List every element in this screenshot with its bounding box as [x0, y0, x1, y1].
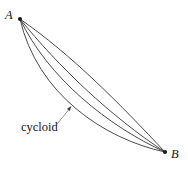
point-b-dot: [163, 150, 167, 154]
figure-background: [0, 0, 188, 170]
point-b-label: B: [171, 147, 179, 161]
cycloid-figure: A B cycloid: [0, 0, 188, 170]
point-a-dot: [18, 17, 22, 21]
figure-canvas: A B cycloid: [0, 0, 188, 170]
cycloid-label: cycloid: [21, 120, 59, 134]
point-a-label: A: [4, 8, 13, 22]
